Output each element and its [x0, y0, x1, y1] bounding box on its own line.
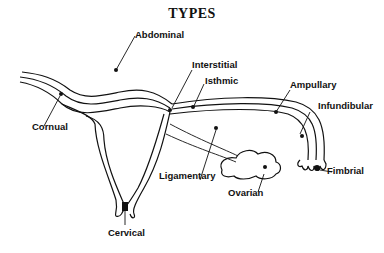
ovary — [221, 151, 281, 179]
ectopic-pregnancy-diagram: Abdominal Cornual Interstitial Isthmic A… — [0, 0, 384, 253]
label-isthmic: Isthmic — [205, 75, 238, 86]
label-interstitial: Interstitial — [192, 59, 237, 70]
label-ovarian: Ovarian — [228, 187, 264, 198]
fimbriae — [298, 160, 326, 171]
label-cervical: Cervical — [108, 227, 145, 238]
fimbrial-mark — [314, 165, 320, 171]
label-cornual: Cornual — [32, 121, 68, 132]
label-ligamentary: Ligamentary — [159, 170, 216, 181]
label-fimbrial: Fimbrial — [327, 165, 364, 176]
left-fallopian-tube — [20, 72, 172, 113]
uterus — [62, 104, 170, 218]
label-ampullary: Ampullary — [290, 79, 337, 90]
label-infundibular: Infundibular — [318, 100, 373, 111]
cervical-mark — [122, 202, 128, 211]
label-abdominal: Abdominal — [135, 29, 184, 40]
leader-lines — [44, 36, 332, 225]
ligament — [166, 124, 238, 162]
